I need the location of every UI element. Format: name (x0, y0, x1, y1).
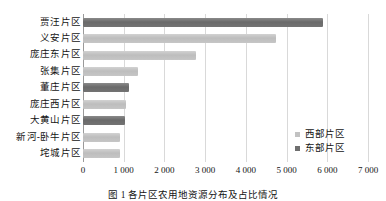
category-label: 庞庄东片区 (1, 49, 83, 59)
category-label: 新河-卧牛片区 (1, 132, 83, 142)
legend-swatch-icon (295, 146, 300, 151)
x-axis-tick-labels: 01 0002 0003 0004 0005 0006 0007 000 (83, 162, 368, 180)
bar[interactable] (83, 133, 120, 142)
x-tick-label: 3 000 (195, 165, 215, 176)
category-label: 庞庄西片区 (1, 99, 83, 109)
category-label: 董庄片区 (1, 82, 83, 92)
bar-row[interactable] (83, 146, 120, 162)
bar[interactable] (83, 18, 323, 27)
legend-swatch-icon (295, 132, 300, 137)
bar-chart-figure: 贾汪片区义安片区庞庄东片区张集片区董庄片区庞庄西片区大黄山片区新河-卧牛片区垞城… (0, 0, 386, 201)
bar[interactable] (83, 51, 196, 60)
category-label: 大黄山片区 (1, 115, 83, 125)
x-tick-label: 5 000 (276, 165, 296, 176)
bar-row[interactable] (83, 14, 323, 30)
category-label: 垞城片区 (1, 148, 83, 158)
bar-row[interactable] (83, 113, 125, 129)
legend-label: 东部片区 (305, 143, 345, 154)
bar[interactable] (83, 116, 125, 125)
x-tick-label: 4 000 (236, 165, 256, 176)
figure-caption: 图 1 各片区农用地资源分布及占比情况 (0, 189, 386, 201)
category-label: 张集片区 (1, 66, 83, 76)
bar[interactable] (83, 149, 120, 158)
y-axis-category-labels: 贾汪片区义安片区庞庄东片区张集片区董庄片区庞庄西片区大黄山片区新河-卧牛片区垞城… (0, 14, 83, 162)
bar-row[interactable] (83, 80, 129, 96)
bar[interactable] (83, 67, 138, 76)
x-tick-label: 6 000 (317, 165, 337, 176)
legend-label: 西部片区 (305, 129, 345, 140)
chart-legend: 西部片区东部片区 (295, 128, 383, 156)
bar-row[interactable] (83, 30, 276, 46)
bar-row[interactable] (83, 47, 196, 63)
bar-row[interactable] (83, 63, 138, 79)
legend-item-west[interactable]: 西部片区 (295, 128, 383, 141)
bar[interactable] (83, 100, 126, 109)
bar-row[interactable] (83, 129, 120, 145)
category-label: 义安片区 (1, 33, 83, 43)
bar[interactable] (83, 34, 276, 43)
legend-item-east[interactable]: 东部片区 (295, 142, 383, 155)
x-tick-label: 0 (81, 165, 86, 176)
bar-row[interactable] (83, 96, 126, 112)
bar[interactable] (83, 83, 129, 92)
x-tick-label: 2 000 (154, 165, 174, 176)
category-label: 贾汪片区 (1, 17, 83, 27)
x-tick-label: 7 000 (358, 165, 378, 176)
x-tick-label: 1 000 (114, 165, 134, 176)
